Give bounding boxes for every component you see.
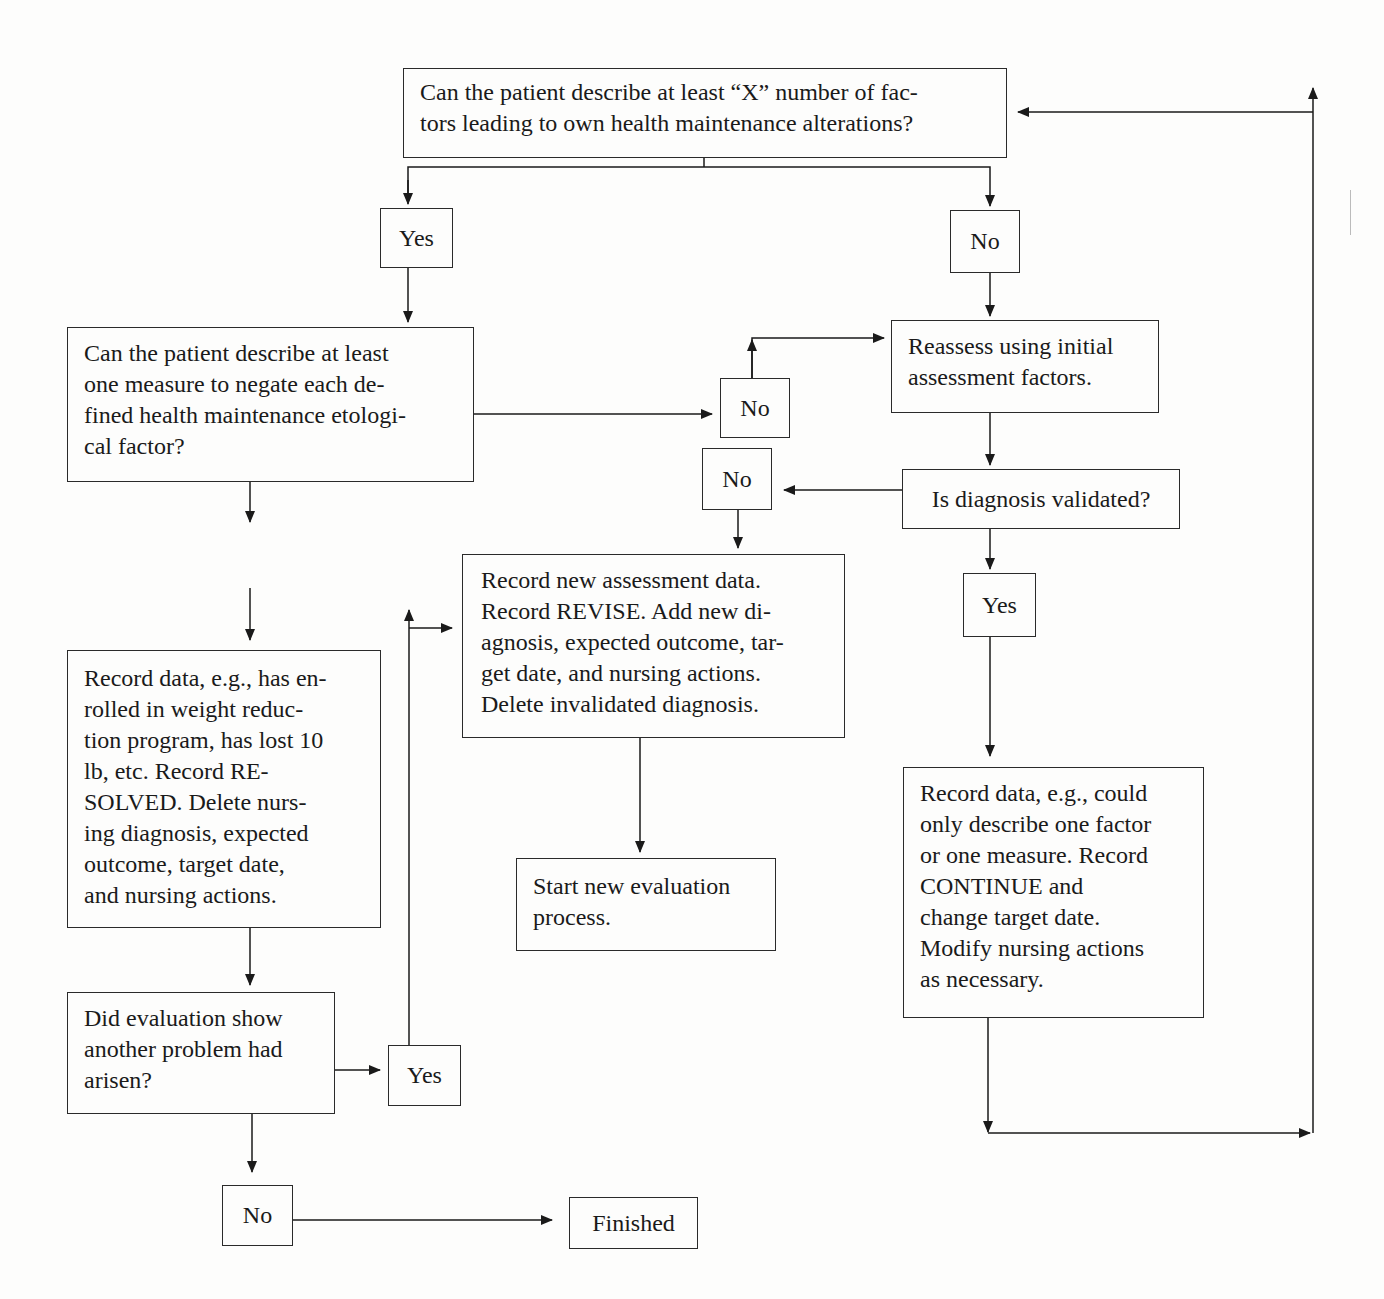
finished-node: Finished — [569, 1197, 698, 1249]
record-resolved-node: Record data, e.g., has en- rolled in wei… — [67, 650, 381, 928]
record-revise-node: Record new assessment data. Record REVIS… — [462, 554, 845, 738]
no-branch-2: No — [720, 378, 790, 438]
start-new-evaluation-node: Start new evaluation process. — [516, 858, 776, 951]
question-another-problem-node: Did evaluation show another problem had … — [67, 992, 335, 1114]
no-branch-1: No — [950, 210, 1020, 273]
scan-artifact-mark — [1350, 190, 1351, 235]
question-validated-node: Is diagnosis validated? — [902, 469, 1180, 529]
yes-branch-1: Yes — [380, 208, 453, 268]
question-factors-node: Can the patient describe at least “X” nu… — [403, 68, 1007, 158]
record-continue-node: Record data, e.g., could only describe o… — [903, 767, 1204, 1018]
no-branch-3: No — [702, 448, 772, 510]
question-measures-node: Can the patient describe at least one me… — [67, 327, 474, 482]
yes-branch-3: Yes — [388, 1045, 461, 1106]
no-branch-4: No — [222, 1185, 293, 1246]
reassess-node: Reassess using initial assessment factor… — [891, 320, 1159, 413]
yes-branch-2: Yes — [963, 573, 1036, 637]
